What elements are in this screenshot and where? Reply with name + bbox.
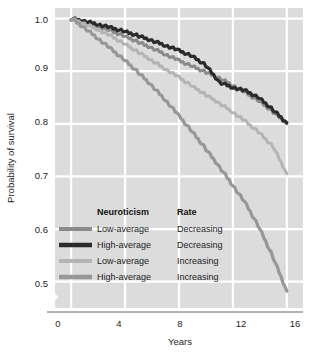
y-tick-label-1.0: 1.0 [35,14,48,25]
legend-label-neuroticism-0: Low-average [97,224,149,234]
y-axis-title: Probability of survival [5,113,16,203]
legend-label-neuroticism-1: High-average [97,240,151,250]
y-tick-label-0.7: 0.7 [35,170,48,181]
y-tick-label-0.8: 0.8 [35,116,48,127]
y-tick-label-0.6: 0.6 [35,224,48,235]
legend-header-rate: Rate [177,207,197,217]
x-tick-label-16: 16 [290,318,301,329]
legend-label-rate-1: Decreasing [177,240,223,250]
x-tick-label-8: 8 [177,318,182,329]
x-tick-label-12: 12 [236,318,247,329]
legend-label-neuroticism-3: High-average [97,272,151,282]
legend-label-rate-3: Increasing [177,272,219,282]
legend-label-rate-0: Decreasing [177,224,223,234]
legend-header-neuroticism: Neuroticism [97,207,149,217]
chart-svg: 1.0 0.9 0.8 0.7 0.6 0.5 0 4 8 12 16 Year… [0,0,309,354]
legend-label-neuroticism-2: Low-average [97,256,149,266]
legend-label-rate-2: Increasing [177,256,219,266]
x-tick-label-4: 4 [116,318,121,329]
y-tick-label-0.9: 0.9 [35,62,48,73]
x-axis-title: Years [168,336,192,347]
survival-curve-figure: 1.0 0.9 0.8 0.7 0.6 0.5 0 4 8 12 16 Year… [0,0,309,354]
y-tick-label-0.5: 0.5 [35,278,48,289]
x-tick-label-0: 0 [55,318,60,329]
